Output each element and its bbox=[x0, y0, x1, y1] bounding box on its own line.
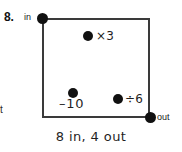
input-label: in bbox=[24, 12, 31, 22]
worksheet-problem-figure: 8. t in out ×3 –10 ÷6 8 in, 4 out bbox=[0, 0, 182, 152]
problem-number: 8. bbox=[4, 11, 14, 24]
multiply-node-dot bbox=[83, 31, 93, 41]
subtract-operation-label: –10 bbox=[59, 97, 84, 110]
output-label: out bbox=[157, 112, 170, 122]
margin-text-fragment: t bbox=[0, 104, 3, 115]
input-node-dot bbox=[37, 13, 48, 24]
output-node-dot bbox=[145, 112, 156, 123]
divide-node-dot bbox=[113, 94, 123, 104]
divide-operation-label: ÷6 bbox=[125, 93, 143, 106]
multiply-operation-label: ×3 bbox=[96, 30, 114, 43]
figure-caption: 8 in, 4 out bbox=[0, 129, 182, 145]
